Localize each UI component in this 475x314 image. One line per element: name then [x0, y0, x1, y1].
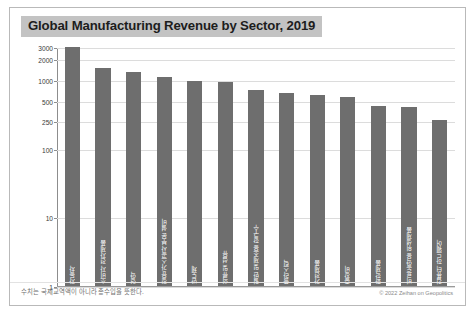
bar[interactable]	[279, 93, 294, 286]
chart-figure: Global Manufacturing Revenue by Sector, …	[9, 7, 466, 306]
y-axis-tick-label: 500	[42, 98, 53, 105]
gridline	[57, 60, 455, 61]
bar[interactable]	[126, 72, 141, 286]
y-axis-tick-label: 2000	[38, 57, 53, 64]
bar[interactable]	[187, 81, 202, 286]
chart-footnote: 수치는 국제교역액이 아니라 총수입을 뜻한다.	[21, 287, 144, 296]
bar[interactable]	[157, 77, 172, 286]
gridline	[57, 48, 455, 49]
bar[interactable]	[65, 47, 80, 286]
y-axis-tick-label: 3000	[38, 45, 53, 52]
bar[interactable]	[401, 107, 416, 286]
copyright-notice: © 2022 Zeihan on Geopolitics	[379, 290, 453, 296]
bar[interactable]	[340, 97, 355, 286]
y-axis-tick-label: 250	[42, 119, 53, 126]
plot-area: 자동차소비자 전자제품영약정유/가스공사 부문 설비반도체의류 및 섬유일반 및…	[57, 48, 455, 287]
y-axis-tick-label: 1000	[38, 77, 53, 84]
bar[interactable]	[248, 90, 263, 286]
page-title: Global Manufacturing Revenue by Sector, …	[21, 16, 322, 37]
bar[interactable]	[95, 68, 110, 286]
bar[interactable]	[432, 120, 447, 286]
footer-divider	[10, 282, 465, 283]
bar[interactable]	[371, 106, 386, 286]
y-axis-tick-labels: 300020001000500250100101	[16, 48, 53, 287]
y-axis-tick-label: 10	[46, 215, 53, 222]
gridline	[57, 81, 455, 82]
bar[interactable]	[218, 82, 233, 286]
bar[interactable]	[310, 95, 325, 286]
y-axis-tick-label: 100	[42, 146, 53, 153]
chart-title-container: Global Manufacturing Revenue by Sector, …	[21, 16, 322, 37]
